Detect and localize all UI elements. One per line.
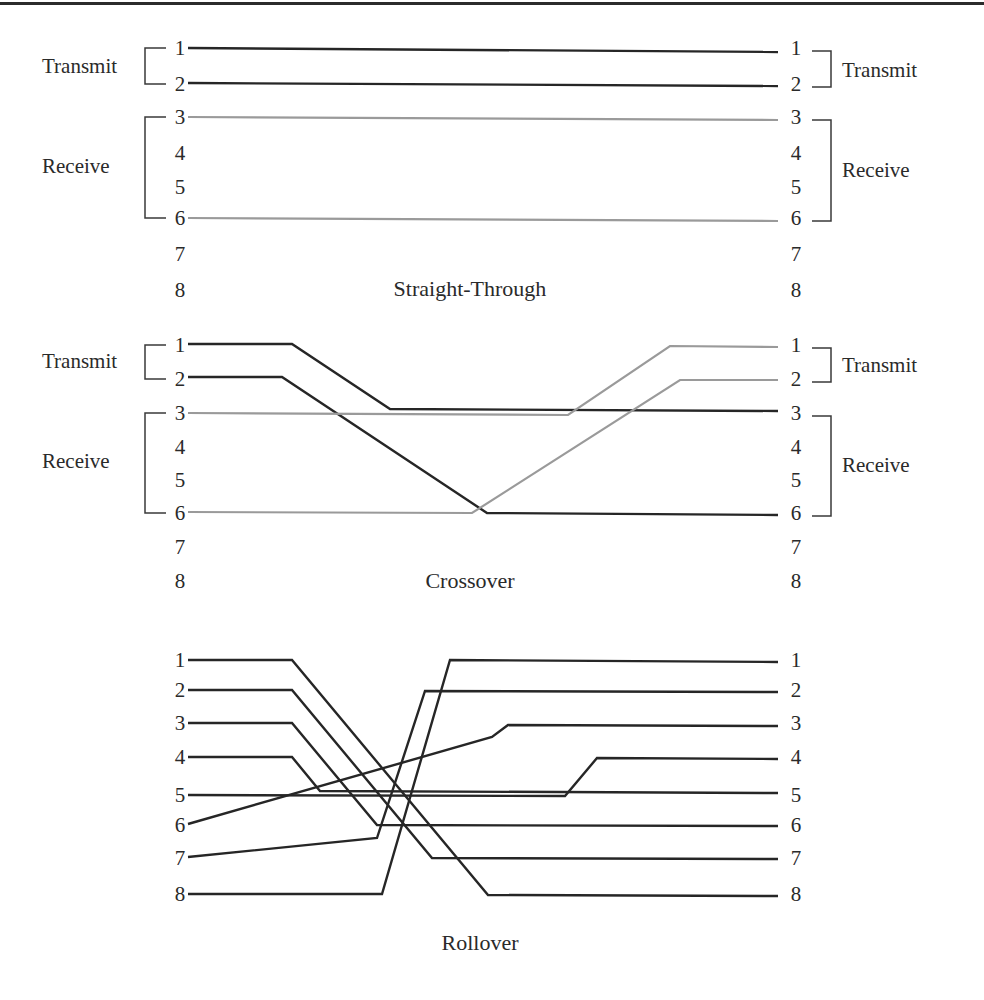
wires — [188, 660, 778, 896]
left-bracket-transmit — [145, 48, 166, 84]
right-pin-labels: 12345678 — [791, 648, 802, 906]
left-pin-5: 5 — [175, 468, 186, 492]
wire-5-to-4 — [188, 758, 778, 796]
panel-rollover: 12345678 12345678 Rollover — [175, 648, 802, 955]
right-pin-2: 2 — [791, 72, 802, 96]
left-pin-labels: 12345678 — [175, 333, 186, 593]
left-pin-5: 5 — [175, 783, 186, 807]
left-pin-8: 8 — [175, 569, 186, 593]
left-pin-4: 4 — [175, 745, 186, 769]
panel-straight-through: 12345678 12345678 TransmitReceiveTransmi… — [42, 36, 917, 302]
right-pin-2: 2 — [791, 678, 802, 702]
left-group-label-transmit: Transmit — [42, 54, 117, 78]
left-pin-8: 8 — [175, 882, 186, 906]
right-pin-5: 5 — [791, 783, 802, 807]
right-pin-4: 4 — [791, 141, 802, 165]
right-bracket-transmit — [812, 51, 831, 87]
left-pin-5: 5 — [175, 175, 186, 199]
left-pin-3: 3 — [175, 401, 186, 425]
panel-caption: Rollover — [442, 930, 520, 955]
left-pin-3: 3 — [175, 105, 186, 129]
right-pin-4: 4 — [791, 435, 802, 459]
right-pin-7: 7 — [791, 242, 802, 266]
right-group-label-receive: Receive — [842, 453, 910, 477]
wire-1-to-8 — [188, 660, 778, 896]
left-pin-1: 1 — [175, 648, 186, 672]
right-pin-8: 8 — [791, 278, 802, 302]
left-pin-6: 6 — [175, 813, 186, 837]
wire-6-to-6 — [188, 218, 778, 221]
left-pin-2: 2 — [175, 72, 186, 96]
right-pin-5: 5 — [791, 175, 802, 199]
left-pin-labels: 12345678 — [175, 36, 186, 302]
left-pin-3: 3 — [175, 711, 186, 735]
right-pin-6: 6 — [791, 501, 802, 525]
right-pin-5: 5 — [791, 468, 802, 492]
left-pin-1: 1 — [175, 36, 186, 60]
right-bracket-receive — [812, 416, 831, 516]
left-pin-2: 2 — [175, 367, 186, 391]
left-pin-4: 4 — [175, 435, 186, 459]
left-pin-4: 4 — [175, 141, 186, 165]
right-pin-labels: 12345678 — [791, 333, 802, 593]
left-bracket-receive — [145, 413, 166, 513]
wire-7-to-2 — [188, 691, 778, 857]
right-pin-4: 4 — [791, 745, 802, 769]
right-pin-3: 3 — [791, 401, 802, 425]
wires — [188, 48, 778, 221]
left-pin-2: 2 — [175, 678, 186, 702]
left-pin-7: 7 — [175, 846, 186, 870]
right-pin-6: 6 — [791, 206, 802, 230]
right-group-label-transmit: Transmit — [842, 58, 917, 82]
left-group-label-transmit: Transmit — [42, 349, 117, 373]
left-pin-6: 6 — [175, 501, 186, 525]
right-pin-2: 2 — [791, 367, 802, 391]
panel-caption: Straight-Through — [394, 276, 547, 301]
wires — [188, 344, 778, 515]
right-pin-6: 6 — [791, 813, 802, 837]
left-group-label-receive: Receive — [42, 449, 110, 473]
right-pin-8: 8 — [791, 882, 802, 906]
right-group-label-transmit: Transmit — [842, 353, 917, 377]
right-pin-labels: 12345678 — [791, 36, 802, 302]
wire-2-to-2 — [188, 83, 778, 86]
right-pin-1: 1 — [791, 648, 802, 672]
left-pin-6: 6 — [175, 206, 186, 230]
left-pin-1: 1 — [175, 333, 186, 357]
right-bracket-transmit — [812, 348, 831, 382]
right-bracket-receive — [812, 120, 831, 221]
wire-2-to-7 — [188, 690, 778, 859]
left-bracket-receive — [145, 117, 166, 218]
right-pin-1: 1 — [791, 333, 802, 357]
group-labels: TransmitReceiveTransmitReceive — [42, 349, 917, 477]
panel-caption: Crossover — [425, 568, 515, 593]
right-pin-8: 8 — [791, 569, 802, 593]
left-pin-labels: 12345678 — [175, 648, 186, 906]
right-pin-7: 7 — [791, 846, 802, 870]
left-bracket-transmit — [145, 345, 166, 379]
left-pin-7: 7 — [175, 535, 186, 559]
cable-pinout-diagram: 12345678 12345678 TransmitReceiveTransmi… — [0, 0, 984, 1000]
wire-1-to-1 — [188, 48, 778, 52]
wire-6-to-2 — [188, 380, 778, 513]
wire-2-to-6 — [188, 377, 778, 515]
left-pin-8: 8 — [175, 278, 186, 302]
group-brackets — [145, 48, 831, 221]
wire-6-to-3 — [188, 725, 778, 824]
right-pin-1: 1 — [791, 36, 802, 60]
right-pin-3: 3 — [791, 711, 802, 735]
group-brackets — [145, 345, 831, 516]
wire-3-to-3 — [188, 117, 778, 120]
panel-crossover: 12345678 12345678 TransmitReceiveTransmi… — [42, 333, 917, 593]
left-group-label-receive: Receive — [42, 154, 110, 178]
left-pin-7: 7 — [175, 242, 186, 266]
right-group-label-receive: Receive — [842, 158, 910, 182]
right-pin-7: 7 — [791, 535, 802, 559]
wire-4-to-5 — [188, 757, 778, 793]
right-pin-3: 3 — [791, 105, 802, 129]
